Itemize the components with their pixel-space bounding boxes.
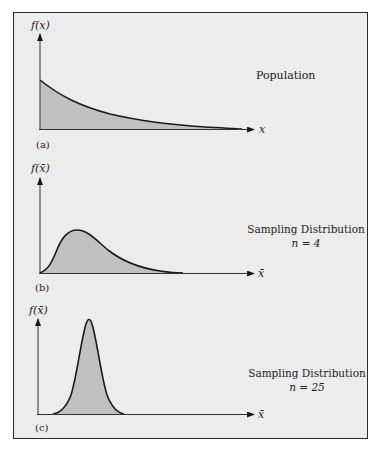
panel-title-c: Sampling Distribution bbox=[248, 367, 366, 379]
sampling-n25-curve-fill bbox=[53, 320, 124, 415]
panel-subtitle-b: n = 4 bbox=[292, 237, 321, 249]
panel-a: f(x) x (a) Population bbox=[30, 19, 315, 150]
y-axis-label-a: f(x) bbox=[30, 19, 50, 32]
y-axis-label-b: f(x̄) bbox=[30, 162, 50, 175]
panel-subtitle-c: n = 25 bbox=[289, 381, 325, 393]
x-axis-label-a: x bbox=[259, 123, 266, 136]
panel-label-c: (c) bbox=[35, 422, 49, 433]
panel-b: f(x̄) x̄ (b) Sampling Distribution n = 4 bbox=[30, 162, 365, 293]
x-axis-label-b: x̄ bbox=[258, 267, 265, 280]
x-axis-label-c: x̄ bbox=[258, 408, 265, 421]
panel-label-a: (a) bbox=[36, 139, 50, 150]
y-axis-label-c: f(x̄) bbox=[28, 304, 48, 317]
panel-title-b: Sampling Distribution bbox=[247, 223, 365, 235]
panel-label-b: (b) bbox=[35, 282, 49, 293]
panel-c: f(x̄) x̄ (c) Sampling Distribution n = 2… bbox=[28, 304, 366, 433]
sampling-distribution-diagram: f(x) x (a) Population f(x̄) x̄ (b) Sampl… bbox=[0, 0, 379, 451]
sampling-n4-curve-fill bbox=[40, 230, 183, 273]
population-curve-fill bbox=[40, 80, 242, 129]
panel-title-a: Population bbox=[256, 69, 315, 82]
